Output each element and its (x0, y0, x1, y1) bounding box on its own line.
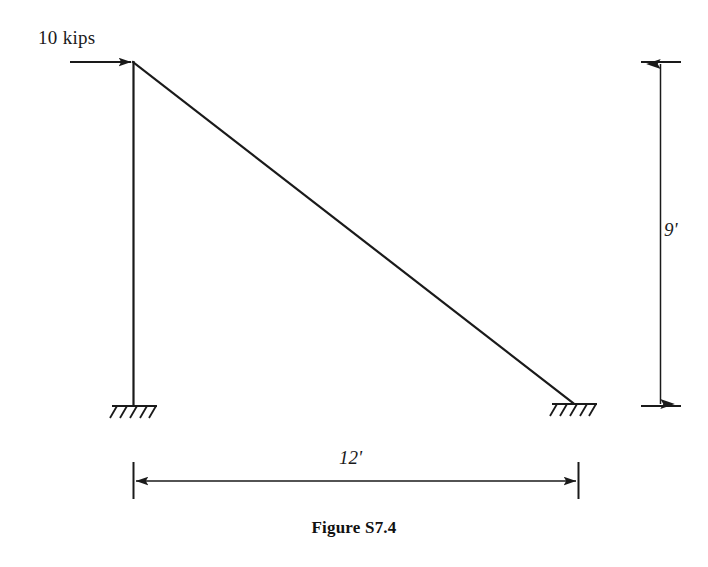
right-support-hatching (550, 404, 596, 416)
left-fixed-support (110, 406, 157, 418)
figure-page: 10 kips 9' 12' Figure S7.4 (0, 0, 708, 567)
frame-members (133, 62, 573, 405)
left-support-hatching (110, 406, 156, 418)
inclined-member (133, 62, 573, 403)
horizontal-dimension-label: 12' (339, 447, 362, 469)
frame-diagram-canvas (0, 0, 708, 567)
vertical-dimension-label: 9' (664, 219, 678, 241)
right-fixed-support (550, 404, 597, 416)
figure-caption: Figure S7.4 (0, 518, 708, 538)
load-label: 10 kips (38, 27, 96, 49)
